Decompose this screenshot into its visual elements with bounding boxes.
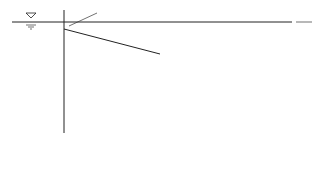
h-je-leader	[69, 13, 97, 26]
water-level-icon	[26, 13, 36, 29]
diagram-canvas	[0, 0, 322, 173]
energy-line-diagram	[0, 0, 322, 173]
